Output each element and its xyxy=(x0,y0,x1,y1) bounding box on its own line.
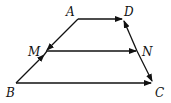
point-label-M: M xyxy=(27,45,41,59)
vector-ND xyxy=(124,21,137,51)
point-label-C: C xyxy=(155,86,164,100)
vector-BM xyxy=(16,55,44,83)
point-label-D: D xyxy=(123,5,134,19)
point-label-A: A xyxy=(65,5,75,19)
vector-AM xyxy=(47,19,78,50)
point-label-N: N xyxy=(141,45,153,59)
trapezoid-diagram: A D M N B C xyxy=(0,0,171,103)
point-label-B: B xyxy=(5,86,15,100)
